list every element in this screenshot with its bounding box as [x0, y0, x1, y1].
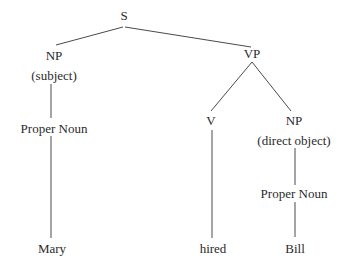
node-proper-noun-subject: Proper Noun [21, 122, 88, 135]
node-s: S [120, 9, 127, 22]
leaf-mary: Mary [38, 242, 66, 255]
edge-vp-to-np-obj [252, 62, 291, 111]
node-proper-noun-object: Proper Noun [261, 187, 328, 200]
node-np-object: NP [286, 114, 303, 127]
node-np-object-role: (direct object) [257, 134, 330, 147]
leaf-bill: Bill [285, 242, 305, 255]
node-vp: VP [244, 47, 261, 60]
node-np-subject-role: (subject) [31, 69, 76, 82]
edge-vp-to-v [211, 62, 252, 111]
parse-tree-diagram: S NP (subject) Proper Noun Mary VP V hir… [0, 0, 344, 266]
leaf-hired: hired [200, 242, 227, 255]
node-np-subject: NP [46, 49, 63, 62]
edge-s-to-np-subj [56, 27, 123, 45]
edge-s-to-vp [125, 27, 251, 47]
node-v: V [206, 114, 215, 127]
